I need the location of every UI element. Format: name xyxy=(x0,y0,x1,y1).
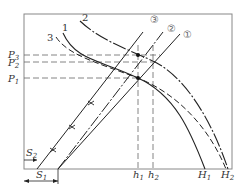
operating-point-p3 xyxy=(136,53,140,57)
pipe-line-3 xyxy=(37,32,143,169)
label-curve-1: 1 xyxy=(62,22,68,33)
label-s1: S1 xyxy=(36,169,47,182)
pump-curve-1 xyxy=(63,33,205,169)
label-curve-2: 2 xyxy=(82,12,88,23)
label-line-3: ③ xyxy=(150,14,159,25)
pressure-head-diagram: P3 P2 P1 h1 h2 H1 H2 S2 S1 1 2 3 ① ② ③ xyxy=(0,0,247,196)
label-h2: h2 xyxy=(148,169,159,182)
label-s2: S2 xyxy=(26,147,38,160)
label-h1: h1 xyxy=(133,169,144,182)
label-H1: H1 xyxy=(197,169,211,182)
pump-curve-3 xyxy=(56,37,226,169)
label-curve-3: 3 xyxy=(47,32,53,43)
label-p1: P1 xyxy=(7,73,19,86)
pipe-line-1 xyxy=(58,34,180,169)
operating-point-p1 xyxy=(136,76,140,80)
label-line-1: ① xyxy=(183,29,192,40)
label-line-2: ② xyxy=(167,23,176,34)
label-H2: H2 xyxy=(220,169,235,182)
